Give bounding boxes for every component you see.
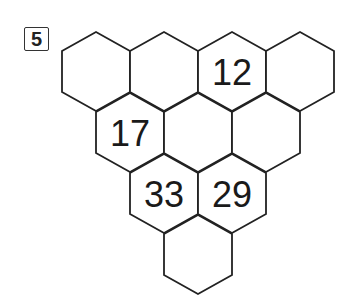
hex-value: 29 bbox=[212, 174, 252, 215]
hex-value: 12 bbox=[212, 52, 252, 93]
hex-value: 17 bbox=[110, 113, 150, 154]
puzzle-stage: 5 12173329 bbox=[0, 0, 345, 305]
problem-number-badge: 5 bbox=[24, 27, 49, 51]
hex-value: 33 bbox=[144, 174, 184, 215]
hexagon-pyramid: 12173329 bbox=[0, 0, 345, 305]
